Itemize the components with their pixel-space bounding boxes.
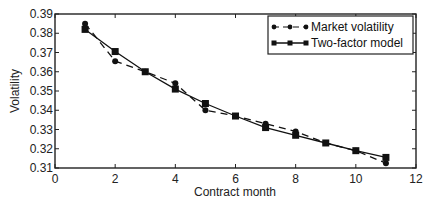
y-tick-label: 0.39 [30,7,54,21]
data-point-square [322,139,329,146]
legend: Market volatility Two-factor model [268,16,413,54]
legend-label: Market volatility [311,20,394,34]
x-tick-label: 12 [409,172,423,186]
data-point-circle [383,160,389,166]
y-tick-label: 0.37 [30,46,54,60]
square-marker-icon [288,41,293,46]
x-axis-label: Contract month [194,185,276,199]
circle-marker-icon [272,25,277,30]
x-tick-label: 6 [232,172,239,186]
square-marker-icon [304,41,309,46]
data-point-square [202,100,209,107]
circle-marker-icon [304,25,309,30]
y-tick-label: 0.32 [30,142,54,156]
y-tick-label: 0.38 [30,26,54,40]
legend-label: Two-factor model [311,36,403,50]
data-point-square [112,48,119,55]
data-point-circle [82,21,88,27]
circle-marker-icon [288,25,293,30]
y-tick-label: 0.34 [30,103,54,117]
y-tick-label: 0.36 [30,65,54,79]
data-point-circle [172,80,178,86]
data-point-square [352,147,359,154]
data-point-square [382,154,389,161]
y-tick-label: 0.31 [30,161,54,175]
data-point-square [142,68,149,75]
data-point-square [232,113,239,120]
data-point-circle [202,107,208,113]
x-tick-label: 2 [112,172,119,186]
x-tick-label: 8 [292,172,299,186]
data-point-square [172,86,179,93]
data-point-circle [112,58,118,64]
y-axis-label: Volatility [8,69,22,113]
data-point-square [262,124,269,131]
y-tick-label: 0.35 [30,84,54,98]
y-axis-label-group: Volatility [8,69,22,113]
x-tick-label: 10 [349,172,363,186]
square-marker-icon [272,41,277,46]
x-tick-label: 4 [172,172,179,186]
y-tick-label: 0.33 [30,123,54,137]
data-point-square [292,132,299,139]
data-point-square [82,26,89,33]
volatility-chart: Volatility Contract month 0246810120.310… [0,0,433,210]
